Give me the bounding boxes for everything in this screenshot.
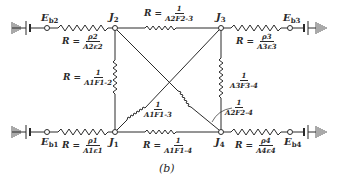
source-label-sub: b4: [292, 140, 302, 149]
equation-numerator: ρ4: [259, 137, 273, 146]
equation-denominator: A2ε2: [83, 42, 102, 50]
equation-numerator: 1: [94, 69, 103, 78]
ground-icon-eb3: [316, 22, 326, 34]
node-j3: [219, 26, 224, 31]
resistor-surface-1: [50, 129, 114, 135]
source-label-sub: b1: [49, 140, 59, 149]
resistor-surface-4: [224, 129, 288, 135]
ground-icon-eb2: [12, 22, 26, 34]
equation-numerator: ρ3: [260, 33, 274, 42]
node-label-j1: J1: [109, 137, 119, 148]
equation-denominator: A2F2-3: [165, 14, 193, 22]
equation-prefix: R =: [144, 9, 162, 18]
resistor-surface-3: [224, 25, 288, 31]
equation-denominator: A1F1-2: [84, 78, 112, 86]
equation-numerator: 1: [154, 101, 163, 110]
node-j1: [113, 130, 118, 135]
source-label-eb1: Eb1: [41, 137, 58, 148]
equation-surface-2: R = ρ2A2ε2: [62, 33, 103, 50]
node-label-sub: 2: [114, 15, 119, 24]
equation-surface-4: R = ρ4A4ε4: [235, 137, 276, 154]
node-j2: [113, 26, 118, 31]
source-label-eb4: Eb4: [284, 137, 301, 148]
ground-icon-eb4: [316, 126, 326, 138]
terminal-eb2: [45, 26, 50, 31]
source-label-text: E: [41, 12, 49, 23]
source-label-eb2: Eb2: [41, 13, 58, 24]
node-label-j3: J3: [216, 12, 226, 23]
terminal-eb1: [45, 130, 50, 135]
equation-prefix: R =: [235, 141, 253, 150]
equation-numerator: 1: [174, 137, 183, 146]
equation-numerator: 1: [175, 5, 184, 14]
node-label-j4: J4: [215, 137, 225, 148]
source-label-text: E: [41, 136, 49, 147]
terminal-eb4: [288, 130, 293, 135]
resistor-space-1-2: [113, 31, 117, 130]
equation-space-2-3: R = 1A2F2-3: [144, 5, 193, 22]
equation-space-1-4: R = 1A1F1-4: [143, 137, 192, 154]
equation-numerator: 1: [235, 99, 244, 108]
ground-icon-eb1: [12, 126, 26, 138]
equation-numerator: 1: [240, 72, 249, 81]
node-label-sub: 1: [114, 140, 119, 149]
equation-denominator: A2F2-4: [225, 108, 253, 116]
source-label-sub: b2: [49, 16, 59, 25]
resistor-space-1-4: [118, 130, 219, 134]
equation-prefix: R =: [236, 37, 254, 46]
equation-surface-3: R = ρ3A3ε3: [236, 33, 277, 50]
source-label-text: E: [284, 136, 292, 147]
equation-space-3-4: 1A3F3-4: [228, 72, 258, 89]
equation-denominator: A1ε1: [83, 146, 102, 154]
equation-denominator: A3ε3: [257, 42, 276, 50]
equation-prefix: R =: [62, 141, 80, 150]
node-label-sub: 4: [220, 140, 225, 149]
equation-surface-1: R = ρ1A1ε1: [62, 137, 103, 154]
equation-denominator: A1F1-4: [164, 146, 192, 154]
source-label-eb3: Eb3: [283, 13, 300, 24]
equation-numerator: ρ1: [86, 137, 100, 146]
equation-space-1-3: 1A1F1-3: [142, 101, 172, 118]
equation-space-2-4: 1A2F2-4: [223, 99, 253, 116]
equation-prefix: R =: [62, 37, 80, 46]
terminal-eb3: [288, 26, 293, 31]
equation-space-1-2: R = 1A1F1-2: [63, 69, 112, 86]
source-label-sub: b3: [291, 16, 301, 25]
node-label-j2: J2: [109, 12, 119, 23]
resistor-space-2-3: [118, 26, 219, 30]
equation-prefix: R =: [143, 141, 161, 150]
figure-caption: (b): [159, 163, 175, 174]
equation-denominator: A1F1-3: [144, 110, 172, 118]
equation-numerator: ρ2: [86, 33, 100, 42]
resistor-surface-2: [50, 25, 114, 31]
node-label-sub: 3: [221, 15, 226, 24]
equation-denominator: A4ε4: [256, 146, 275, 154]
equation-prefix: R =: [63, 73, 81, 82]
node-j4: [219, 130, 224, 135]
source-label-text: E: [283, 12, 291, 23]
equation-denominator: A3F3-4: [230, 81, 258, 89]
